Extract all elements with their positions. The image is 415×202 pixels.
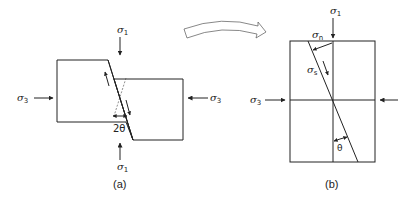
slip-arrow-up	[105, 72, 109, 86]
curved-transition-arrow-icon	[184, 21, 266, 38]
sigma3-right-label: σ3	[210, 92, 221, 105]
caption-b: (b)	[325, 178, 338, 190]
panel-a: 2θ σ1 σ1 σ3 σ3 (a)	[17, 24, 221, 190]
sigma-s-label: σs	[307, 64, 318, 77]
theta-arrow-right	[340, 137, 347, 139]
slip-arrow-down	[126, 100, 130, 115]
caption-a: (a)	[113, 178, 126, 190]
sigma1-bottom-label: σ1	[117, 161, 128, 174]
theta-label: θ	[337, 143, 343, 153]
panel-b: σn σs σ1 σ3 θ (b)	[250, 5, 398, 190]
sigma-n-label: σn	[312, 29, 323, 42]
sigma1-top-label-b: σ1	[330, 5, 341, 18]
sigma-n-arrow	[313, 43, 332, 50]
fault-stress-diagram: 2θ σ1 σ1 σ3 σ3 (a) σn σs σ1 σ3	[0, 0, 415, 202]
sigma3-left-label-b: σ3	[250, 94, 261, 107]
angle-label-2theta: 2θ	[113, 123, 125, 134]
sigma3-left-label: σ3	[17, 92, 28, 105]
sigma1-top-label: σ1	[117, 24, 128, 37]
sigma-s-arrow	[323, 61, 328, 75]
theta-arrow-left	[334, 139, 340, 141]
